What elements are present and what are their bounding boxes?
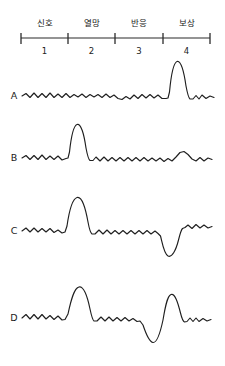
phase-label-4: 보상 — [179, 18, 195, 28]
trace-row-d: D — [10, 287, 211, 343]
trace-waveform-a — [22, 61, 214, 99]
phase-number-4: 4 — [184, 46, 189, 56]
phase-number-3: 3 — [136, 46, 141, 56]
phase-number-1: 1 — [42, 46, 47, 56]
phase-label-1: 신호 — [37, 18, 53, 28]
trace-waveform-d — [22, 287, 211, 343]
trace-label-a: A — [11, 90, 18, 101]
phase-axis-group: 신호 열망 반응 보상 1 2 3 4 — [21, 18, 210, 56]
trace-waveform-c — [22, 197, 212, 256]
phase-label-2: 열망 — [84, 18, 100, 28]
trace-row-c: C — [11, 197, 212, 256]
trace-row-b: B — [11, 124, 212, 163]
trace-row-a: A — [11, 61, 214, 101]
trace-label-d: D — [10, 312, 17, 323]
trace-label-c: C — [11, 225, 18, 236]
habit-loop-activity-figure: 신호 열망 반응 보상 1 2 3 4 A B C D — [0, 0, 225, 366]
phase-number-2: 2 — [89, 46, 94, 56]
phase-label-3: 반응 — [131, 18, 147, 28]
trace-label-b: B — [11, 152, 18, 163]
trace-waveform-b — [22, 124, 212, 161]
